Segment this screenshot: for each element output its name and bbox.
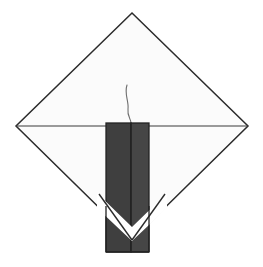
- figure-root: [0, 0, 263, 267]
- napkin-candle-illustration: [0, 0, 263, 267]
